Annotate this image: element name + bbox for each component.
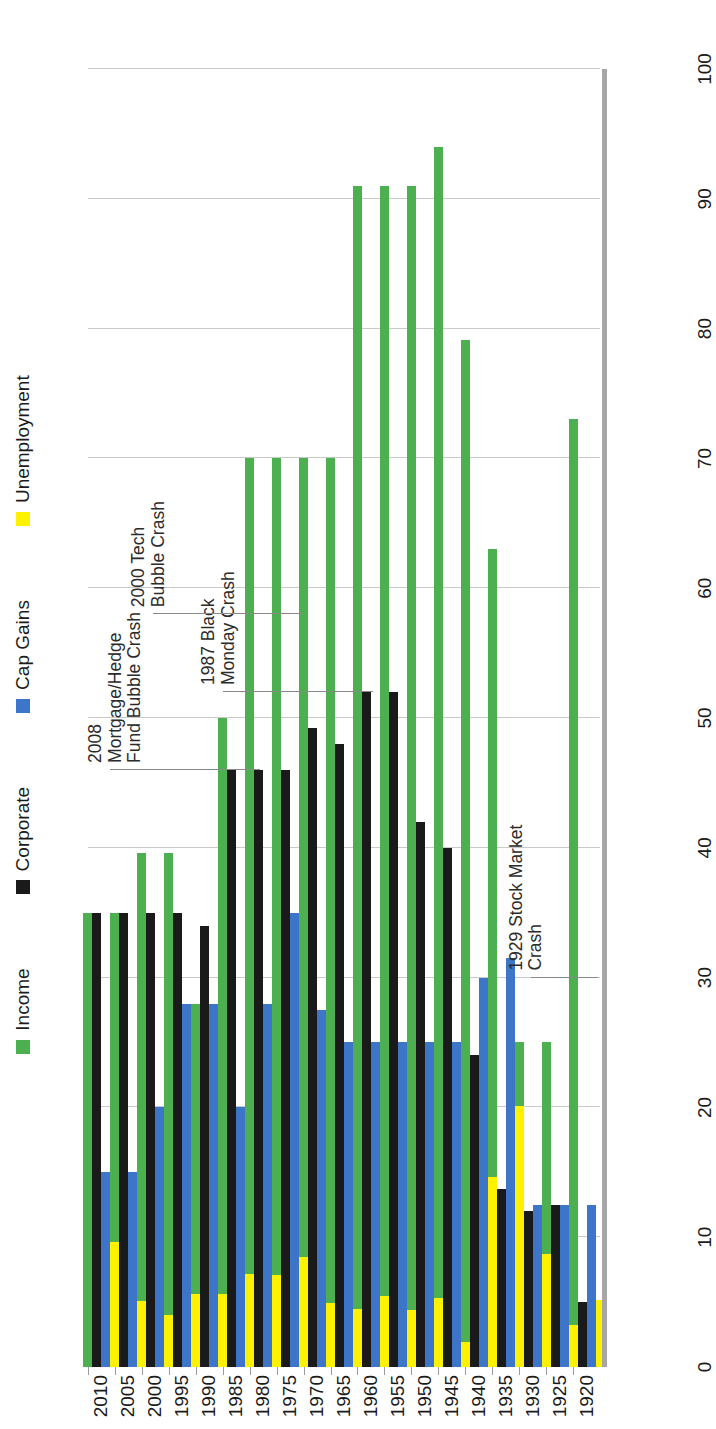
category-axis-tick-label: 1980: [253, 1375, 272, 1425]
category-axis-tick-label: 1985: [226, 1375, 245, 1425]
legend-item-cap-gains[interactable]: Cap Gains: [12, 600, 34, 713]
category-axis-tick-label: 1935: [496, 1375, 515, 1425]
category-axis-tick-mark: [88, 1367, 89, 1375]
chart-annotation: 2008 Mortgage/Hedge Fund Bubble Crash: [86, 612, 145, 763]
category-axis-tick-label: 1945: [442, 1375, 461, 1425]
category-axis-tick-mark: [142, 1367, 143, 1375]
value-axis-tick-label: 50: [694, 688, 716, 748]
category-axis-tick-mark: [573, 1367, 574, 1375]
legend-item-income[interactable]: Income: [12, 968, 34, 1053]
category-axis-tick-label: 1920: [577, 1375, 596, 1425]
category-axis-tick-mark: [331, 1367, 332, 1375]
annotation-leader-line: [153, 613, 303, 614]
category-axis-tick-label: 2000: [145, 1375, 164, 1425]
category-axis-tick-mark: [115, 1367, 116, 1375]
category-axis-tick-mark: [304, 1367, 305, 1375]
category-axis-tick-label: 1975: [280, 1375, 299, 1425]
chart-annotation: 1987 Black Monday Crash: [199, 571, 238, 685]
category-axis-tick-label: 1970: [307, 1375, 326, 1425]
value-axis-tick-label: 70: [694, 428, 716, 488]
category-axis-tick-mark: [546, 1367, 547, 1375]
value-axis-tick-label: 10: [694, 1207, 716, 1267]
value-axis-tick-label: 60: [694, 558, 716, 618]
category-axis-tick-mark: [384, 1367, 385, 1375]
chart-annotation: 2000 Tech Bubble Crash: [129, 501, 168, 607]
legend-item-label: Unemployment: [12, 375, 34, 503]
legend-swatch-icon: [16, 1040, 30, 1054]
plot-area: 1929 Stock Market Crash1987 Black Monday…: [88, 69, 600, 1367]
category-axis-tick-mark: [250, 1367, 251, 1375]
category-axis-tick-label: 1930: [523, 1375, 542, 1425]
category-axis-tick-mark: [519, 1367, 520, 1375]
category-axis-tick-mark: [492, 1367, 493, 1375]
category-axis-tick-label: 1950: [415, 1375, 434, 1425]
legend-swatch-icon: [16, 880, 30, 894]
category-axis-tick-label: 2010: [91, 1375, 110, 1425]
legend-swatch-icon: [16, 699, 30, 713]
annotation-leader-line: [110, 769, 260, 770]
annotations-layer: 1929 Stock Market Crash1987 Black Monday…: [88, 69, 600, 1367]
category-axis-tick-mark: [438, 1367, 439, 1375]
category-axis-tick-label: 1965: [334, 1375, 353, 1425]
value-axis-tick-label: 30: [694, 948, 716, 1008]
category-axis-tick-mark: [465, 1367, 466, 1375]
annotation-leader-line: [223, 691, 373, 692]
value-axis-tick-label: 100: [694, 39, 716, 99]
category-axis-tick-mark: [223, 1367, 224, 1375]
annotation-leader-line: [531, 977, 598, 978]
legend-item-label: Cap Gains: [12, 600, 34, 690]
category-axis-tick-label: 1940: [469, 1375, 488, 1425]
category-axis-tick-label: 1955: [388, 1375, 407, 1425]
chart-legend: IncomeCorporateCap GainsUnemployment: [0, 0, 46, 1429]
value-axis-tick-label: 90: [694, 169, 716, 229]
value-axis-tick-label: 0: [694, 1337, 716, 1397]
category-axis-tick-mark: [169, 1367, 170, 1375]
category-axis-tick-label: 1960: [361, 1375, 380, 1425]
value-axis-baseline: [602, 69, 607, 1367]
category-axis-tick-mark: [196, 1367, 197, 1375]
legend-item-label: Corporate: [12, 787, 34, 872]
category-axis-tick-label: 1995: [172, 1375, 191, 1425]
category-axis-tick-mark: [357, 1367, 358, 1375]
value-axis-tick-label: 20: [694, 1077, 716, 1137]
value-axis-tick-label: 80: [694, 299, 716, 359]
legend-item-label: Income: [12, 968, 34, 1030]
category-axis-tick-label: 1925: [550, 1375, 569, 1425]
legend-item-unemployment[interactable]: Unemployment: [12, 375, 34, 526]
category-axis-tick-mark: [411, 1367, 412, 1375]
category-axis-tick-label: 2005: [118, 1375, 137, 1425]
legend-swatch-icon: [16, 512, 30, 526]
category-axis-tick-label: 1990: [199, 1375, 218, 1425]
value-axis-tick-label: 40: [694, 818, 716, 878]
chart-annotation: 1929 Stock Market Crash: [507, 825, 546, 971]
legend-item-corporate[interactable]: Corporate: [12, 787, 34, 895]
category-axis-tick-mark: [277, 1367, 278, 1375]
